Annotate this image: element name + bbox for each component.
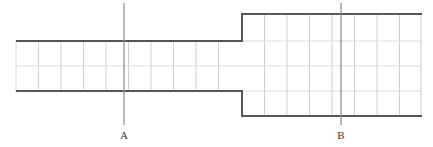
lower-profile-line [16,91,422,116]
section-line-b-group[interactable]: B [337,3,344,141]
section-line-a-group[interactable]: A [120,3,128,141]
section-label-b: B [337,129,344,141]
diagram-canvas: A B [0,0,433,147]
upper-profile-line [16,14,422,41]
stepped-shaft-diagram: A B [0,0,433,147]
section-label-a: A [120,129,128,141]
grid-right-vertical [265,14,422,116]
